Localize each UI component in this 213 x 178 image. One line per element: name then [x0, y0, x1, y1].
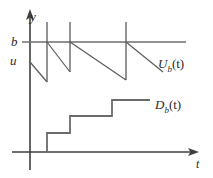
sawtooth-label-arg: (t): [172, 56, 184, 71]
sawtooth-ramp-1: [30, 62, 47, 82]
staircase-polyline: [47, 100, 150, 152]
figure-canvas: [0, 0, 213, 178]
staircase-label-arg: (t): [169, 97, 181, 112]
level-label-b: b: [11, 35, 18, 48]
staircase-curve-group: [47, 100, 150, 152]
axes-group: [12, 9, 199, 170]
sawtooth-ramp-2: [47, 42, 70, 72]
y-axis-label: y: [30, 10, 36, 23]
level-label-u: u: [10, 54, 17, 67]
sawtooth-ramp-3: [70, 42, 126, 80]
staircase-label-name: D: [155, 97, 164, 112]
sawtooth-curve-label: Ub(t): [158, 57, 184, 74]
x-axis-label: t: [196, 158, 199, 170]
staircase-curve-label: Db(t): [155, 98, 181, 115]
figure-container: y t b u Ub(t) Db(t): [0, 0, 213, 178]
sawtooth-label-name: U: [158, 56, 167, 71]
sawtooth-curve-group: [30, 22, 163, 82]
